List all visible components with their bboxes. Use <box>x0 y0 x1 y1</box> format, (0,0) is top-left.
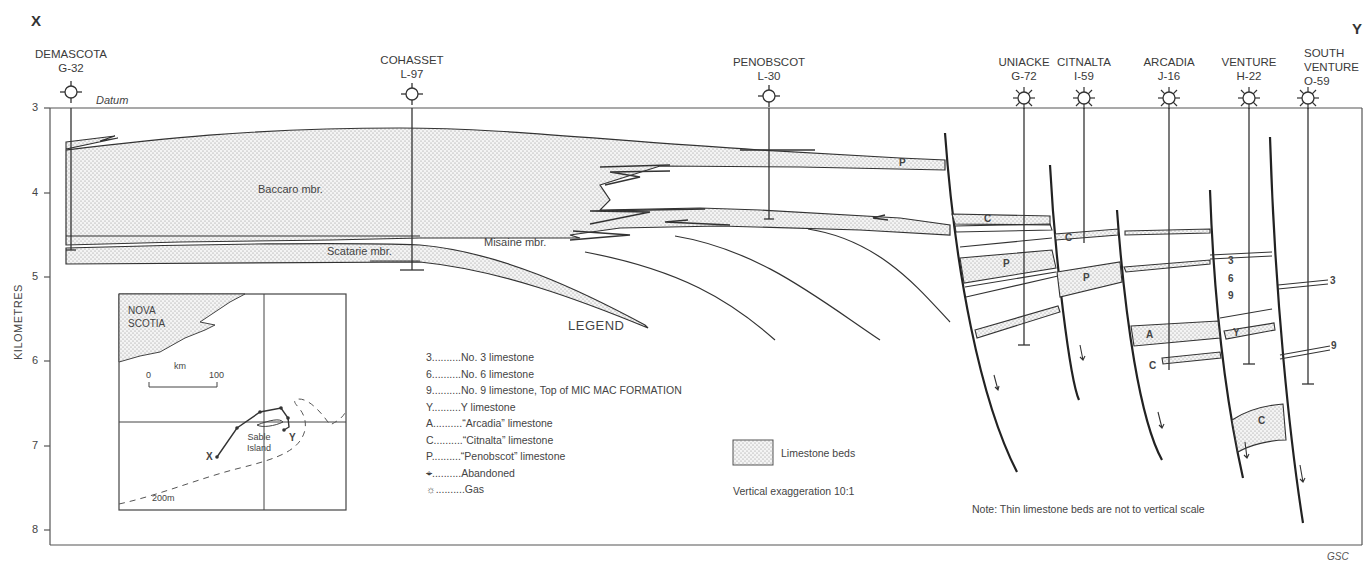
scale-min: 0 <box>146 370 151 380</box>
well-citnalta: CITNALTA I-59 <box>1057 55 1111 83</box>
legend-item-9: 9..........No. 9 limestone, Top of MIC M… <box>426 382 682 399</box>
scale-max: 100 <box>209 370 224 380</box>
bed-label-c: C <box>1149 360 1156 371</box>
section-end-label: Y <box>1352 20 1362 37</box>
well-south-venture: SOUTH VENTURE O-59 <box>1304 46 1359 88</box>
y-tick: 3 <box>32 101 38 113</box>
y-axis-ticks <box>44 108 50 530</box>
legend-item-y: Y..........Y limestone <box>426 399 682 416</box>
scale-note: Note: Thin limestone beds are not to ver… <box>972 503 1205 515</box>
scatarie-label: Scatarie mbr. <box>327 245 392 257</box>
y-axis-title: KILOMETRES <box>12 284 24 360</box>
map-point-x: X <box>206 451 213 462</box>
section-start-label: X <box>31 12 41 29</box>
well-arcadia: ARCADIA J-16 <box>1143 55 1194 83</box>
y-tick: 8 <box>32 523 38 535</box>
well-venture: VENTURE H-22 <box>1222 55 1277 83</box>
bed-label-6: 6 <box>1228 273 1234 284</box>
gas-well-icon <box>1158 87 1180 109</box>
baccaro-member <box>66 128 950 245</box>
legend-item-a: A..........“Arcadia” limestone <box>426 415 682 432</box>
abandoned-well-icon <box>401 83 423 105</box>
gas-well-icon <box>1297 87 1319 109</box>
limestone-pattern-swatch <box>733 440 773 465</box>
y-tick: 5 <box>32 270 38 282</box>
nova-scotia-label: NOVA SCOTIA <box>128 304 165 330</box>
gas-well-icon <box>1013 87 1035 109</box>
bed-label-3: 3 <box>1330 275 1336 286</box>
credit-label: GSC <box>1327 551 1349 562</box>
vertical-exaggeration: Vertical exaggeration 10:1 <box>733 485 854 497</box>
bed-label-p: P <box>1003 258 1010 269</box>
legend-item-p: P..........“Penobscot” limestone <box>426 448 682 465</box>
legend-item-c: C..........“Citnalta” limestone <box>426 432 682 449</box>
well-symbols <box>60 81 1319 109</box>
well-cohasset: COHASSET L-97 <box>380 53 443 81</box>
gas-icon: ☼ <box>426 483 436 495</box>
gas-well-icon <box>1238 87 1260 109</box>
well-demascota: DEMASCOTA G-32 <box>35 47 107 75</box>
limestone-pattern-label: Limestone beds <box>781 447 855 459</box>
baccaro-label: Baccaro mbr. <box>258 183 323 195</box>
bed-label-a: A <box>1146 329 1153 340</box>
cross-section-drawing <box>0 0 1371 570</box>
y-tick: 4 <box>32 186 38 198</box>
bed-label-p: P <box>1083 272 1090 283</box>
abandoned-well-icon <box>60 81 82 103</box>
sable-island-label: Sable Island <box>247 432 271 454</box>
legend-title: LEGEND <box>568 318 624 333</box>
well-uniacke: UNIACKE G-72 <box>998 55 1049 83</box>
bed-label-9: 9 <box>1228 290 1234 301</box>
legend-item-3: 3..........No. 3 limestone <box>426 349 682 366</box>
bed-label-9: 9 <box>1331 340 1337 351</box>
bed-label-c: C <box>1065 232 1072 243</box>
bed-label-y: Y <box>1233 327 1240 338</box>
gas-well-icon <box>1073 87 1095 109</box>
datum-label: Datum <box>96 94 128 106</box>
bed-label-3: 3 <box>1228 255 1234 266</box>
abandoned-well-icon <box>758 85 780 107</box>
well-penobscot: PENOBSCOT L-30 <box>733 55 805 83</box>
legend-list: 3..........No. 3 limestone 6..........No… <box>426 349 682 498</box>
y-tick: 6 <box>32 354 38 366</box>
bed-label-p: P <box>899 157 906 168</box>
map-point-y: Y <box>289 432 296 443</box>
legend-item-abandoned: ⌖..........Abandoned <box>426 465 682 482</box>
bed-label-c: C <box>1258 415 1265 426</box>
misaine-label: Misaine mbr. <box>484 236 546 248</box>
scale-unit: km <box>174 361 186 371</box>
y-tick: 7 <box>32 439 38 451</box>
right-limestone-beds <box>952 214 1330 452</box>
bed-label-c: C <box>984 213 991 224</box>
isobath-label: 200m <box>152 493 175 503</box>
legend-item-6: 6..........No. 6 limestone <box>426 366 682 383</box>
legend-item-gas: ☼..........Gas <box>426 481 682 498</box>
